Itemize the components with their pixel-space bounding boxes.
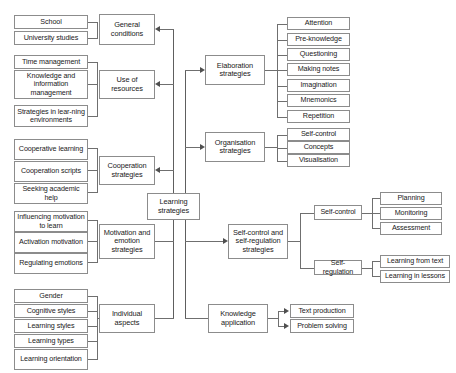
connector-line (277, 70, 287, 71)
connector-line (160, 170, 174, 171)
leaf-node-learning-from-text[interactable]: Learning from text (380, 255, 450, 268)
leaf-node-cooperation-scripts[interactable]: Cooperation scripts (14, 161, 88, 182)
leaf-node-problem-solving[interactable]: Problem solving (290, 319, 354, 333)
leaf-node-visualisation[interactable]: Visualisation (287, 154, 350, 167)
category-node-cooperation-strategies[interactable]: Cooperation strategies (99, 156, 155, 185)
connector-line (160, 29, 174, 30)
leaf-node-text-production[interactable]: Text production (290, 304, 354, 318)
leaf-node-monitoring[interactable]: Monitoring (380, 207, 442, 220)
connector-line (300, 268, 314, 269)
leaf-node-regulating-emotions[interactable]: Regulating emotions (14, 253, 88, 274)
connector-line (265, 147, 277, 148)
leaf-node-learning-types[interactable]: Learning types (14, 334, 88, 348)
connector-line (277, 135, 287, 136)
connector-line (372, 213, 380, 214)
leaf-node-seeking-academic-help[interactable]: Seeking academic help (14, 183, 88, 204)
connector-line (268, 318, 278, 319)
subcategory-node-self-regulation[interactable]: Self-regulation (314, 260, 362, 275)
connector-line (185, 70, 200, 71)
connector-line (300, 213, 301, 268)
arrow-head (155, 167, 160, 173)
leaf-node-assessment[interactable]: Assessment (380, 222, 442, 235)
connector-line (185, 318, 208, 319)
leaf-node-cognitive-styles[interactable]: Cognitive styles (14, 304, 88, 318)
leaf-node-cooperative-learning[interactable]: Cooperative learning (14, 139, 88, 160)
root-node-learning-strategies[interactable]: Learning strategies (147, 193, 200, 220)
leaf-node-making-notes[interactable]: Making notes (287, 63, 350, 76)
concept-map-diagram: School University studies General condit… (0, 0, 456, 373)
leaf-node-attention[interactable]: Attention (287, 17, 350, 30)
category-node-knowledge-application[interactable]: Knowledge application (208, 304, 268, 333)
connector-line (277, 86, 287, 87)
arrow-head (284, 308, 289, 314)
category-node-self-control-and-self-regulation-strategies[interactable]: Self-control and self-regulation strateg… (228, 224, 288, 259)
connector-line (277, 148, 287, 149)
connector-line (288, 241, 300, 242)
connector-line (372, 276, 380, 277)
leaf-node-knowledge-and-information-management[interactable]: Knowledge and information management (14, 70, 88, 99)
leaf-node-self-control-organisation[interactable]: Self-control (287, 128, 350, 141)
leaf-node-time-management[interactable]: Time management (14, 55, 88, 69)
category-node-use-of-resources[interactable]: Use of resources (99, 70, 155, 99)
subcategory-node-self-control[interactable]: Self-control (314, 205, 362, 220)
category-node-general-conditions[interactable]: General conditions (99, 14, 155, 45)
arrow-head (155, 81, 160, 87)
category-node-motivation-and-emotion-strategies[interactable]: Motivation and emotion strategies (99, 224, 155, 259)
category-node-elaboration-strategies[interactable]: Elaboration strategies (205, 55, 265, 85)
connector-line (185, 241, 223, 242)
connector-line (362, 268, 372, 269)
leaf-node-repetition[interactable]: Repetition (287, 110, 350, 123)
connector-line (277, 40, 287, 41)
leaf-node-planning[interactable]: Planning (380, 192, 442, 205)
connector-line (97, 148, 98, 193)
connector-line (277, 117, 287, 118)
connector-line (185, 147, 200, 148)
leaf-node-learning-orientation[interactable]: Learning orientation (14, 349, 88, 370)
leaf-node-questioning[interactable]: Questioning (287, 48, 350, 61)
leaf-node-mnemonics[interactable]: Mnemonics (287, 94, 350, 107)
leaf-node-influencing-motivation-to-learn[interactable]: Influencing motivation to learn (14, 211, 88, 232)
leaf-node-university-studies[interactable]: University studies (14, 31, 88, 45)
leaf-node-activation-motivation[interactable]: Activation motivation (14, 232, 88, 253)
connector-line (277, 101, 287, 102)
connector-line (277, 161, 287, 162)
leaf-node-pre-knowledge[interactable]: Pre-knowledge (287, 33, 350, 46)
connector-line (362, 213, 372, 214)
connector-line (97, 296, 98, 360)
leaf-node-learning-in-lessons[interactable]: Learning in lessons (380, 270, 450, 283)
arrow-head (284, 323, 289, 329)
leaf-node-learning-styles[interactable]: Learning styles (14, 319, 88, 333)
leaf-node-concepts[interactable]: Concepts (287, 141, 350, 154)
arrow-head (155, 26, 160, 32)
connector-line (97, 220, 98, 263)
connector-line (265, 70, 277, 71)
leaf-node-school[interactable]: School (14, 15, 88, 29)
leaf-node-imagination[interactable]: Imagination (287, 79, 350, 92)
trunk-line-left (173, 29, 174, 319)
connector-line (97, 22, 98, 39)
connector-line (372, 198, 380, 199)
leaf-node-strategies-in-learning-environments[interactable]: Strategies in lear-ning environments (14, 105, 88, 127)
leaf-node-gender[interactable]: Gender (14, 289, 88, 303)
connector-line (372, 228, 380, 229)
connector-line (160, 84, 174, 85)
connector-line (372, 261, 380, 262)
category-node-individual-aspects[interactable]: Individual aspects (99, 304, 155, 333)
category-node-organisation-strategies[interactable]: Organisation strategies (205, 132, 265, 162)
connector-line (277, 55, 287, 56)
connector-line (372, 261, 373, 276)
connector-line (277, 24, 287, 25)
connector-line (300, 213, 314, 214)
connector-line (278, 311, 279, 326)
connector-line (97, 62, 98, 117)
